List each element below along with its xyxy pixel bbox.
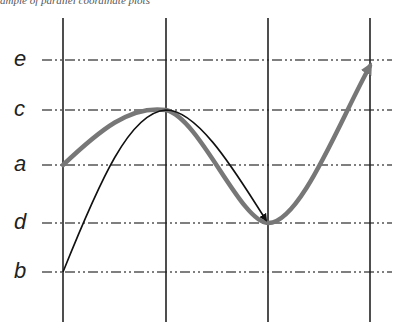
parallel-coordinates-diagram <box>0 0 415 335</box>
thick-gray-path <box>63 66 370 223</box>
vertical-axes <box>63 18 370 322</box>
